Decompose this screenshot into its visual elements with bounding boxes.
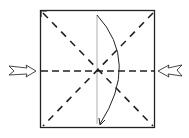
push-arrow-left (9, 65, 36, 77)
push-arrow-right (158, 65, 182, 77)
curved-fold-arrow (97, 15, 119, 124)
origami-diagram (0, 0, 189, 138)
